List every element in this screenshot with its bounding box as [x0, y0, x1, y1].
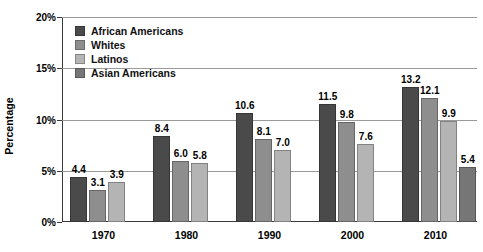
legend: African Americans Whites Latinos Asian A… [75, 26, 183, 79]
bar-value-label: 9.9 [442, 109, 456, 119]
bar-rect[interactable] [70, 177, 87, 222]
bar-value-label: 4.4 [72, 165, 86, 175]
x-tick-label-1990: 1990 [228, 224, 311, 246]
bar-rect[interactable] [108, 182, 125, 222]
bars: 11.59.87.6 [311, 17, 394, 222]
y-tick-label: 5% [42, 165, 56, 176]
x-tick-label-1980: 1980 [145, 224, 228, 246]
bar-rect[interactable] [357, 144, 374, 222]
legend-swatch-african-americans [75, 26, 85, 36]
legend-item: Whites [75, 40, 183, 51]
legend-item: African Americans [75, 26, 183, 37]
bar-rect[interactable] [440, 121, 457, 222]
bar-value-label: 10.6 [235, 101, 254, 111]
y-axis-title: Percentage [0, 0, 20, 252]
bar-rect[interactable] [402, 87, 419, 222]
y-tick-label: 15% [36, 63, 56, 74]
bar-rect[interactable] [319, 104, 336, 222]
bar-rect[interactable] [236, 113, 253, 222]
legend-label-african-americans: African Americans [91, 26, 183, 37]
y-tick-label: 0% [42, 217, 56, 228]
bar-2000-african-americans[interactable]: 11.5 [319, 17, 336, 222]
bar-value-label: 6.0 [174, 149, 188, 159]
bar-group-2010: 13.212.19.95.4 [394, 17, 477, 222]
bar-value-label: 7.6 [359, 132, 373, 142]
bar-value-label: 12.1 [420, 86, 439, 96]
bar-value-label: 3.1 [91, 178, 105, 188]
legend-label-latinos: Latinos [91, 54, 128, 65]
x-tick-label-2000: 2000 [311, 224, 394, 246]
bar-2010-asian-americans[interactable]: 5.4 [459, 17, 476, 222]
bar-rect[interactable] [255, 139, 272, 222]
y-tick-mark [57, 222, 62, 223]
y-tick-label: 10% [36, 114, 56, 125]
bar-rect[interactable] [421, 98, 438, 222]
bar-value-label: 13.2 [401, 75, 420, 85]
bar-2010-whites[interactable]: 12.1 [421, 17, 438, 222]
bar-value-label: 7.0 [276, 138, 290, 148]
legend-label-asian-americans: Asian Americans [91, 68, 176, 79]
bar-value-label: 5.4 [461, 155, 475, 165]
bars: 13.212.19.95.4 [394, 17, 477, 222]
legend-item: Latinos [75, 54, 183, 65]
bar-2010-african-americans[interactable]: 13.2 [402, 17, 419, 222]
legend-swatch-asian-americans [75, 68, 85, 78]
bar-rect[interactable] [459, 167, 476, 222]
x-tick-label-1970: 1970 [62, 224, 145, 246]
y-tick-label: 20% [36, 12, 56, 23]
bar-value-label: 9.8 [340, 110, 354, 120]
bar-rect[interactable] [191, 163, 208, 222]
legend-item: Asian Americans [75, 68, 183, 79]
legend-label-whites: Whites [91, 40, 125, 51]
y-axis-title-label: Percentage [3, 97, 15, 155]
bar-group-1990: 10.68.17.0 [228, 17, 311, 222]
bar-2010-latinos[interactable]: 9.9 [440, 17, 457, 222]
bar-value-label: 3.9 [110, 170, 124, 180]
bar-rect[interactable] [338, 122, 355, 222]
bar-rect[interactable] [274, 150, 291, 222]
bar-1990-whites[interactable]: 8.1 [255, 17, 272, 222]
legend-swatch-whites [75, 40, 85, 50]
bar-value-label: 8.4 [155, 124, 169, 134]
plot-area: 0%5%10%15%20% African Americans Whites L… [62, 17, 477, 222]
bar-1990-african-americans[interactable]: 10.6 [236, 17, 253, 222]
x-axis-labels: 19701980199020002010 [62, 224, 477, 246]
bars: 10.68.17.0 [228, 17, 311, 222]
grouped-bar-chart: Percentage 0%5%10%15%20% African America… [0, 0, 483, 252]
bar-rect[interactable] [172, 161, 189, 223]
bar-rect[interactable] [89, 190, 106, 222]
bar-1990-latinos[interactable]: 7.0 [274, 17, 291, 222]
bar-2000-latinos[interactable]: 7.6 [357, 17, 374, 222]
bar-group-2000: 11.59.87.6 [311, 17, 394, 222]
bar-2000-whites[interactable]: 9.8 [338, 17, 355, 222]
bar-value-label: 11.5 [318, 92, 337, 102]
bar-value-label: 8.1 [257, 127, 271, 137]
x-tick-label-2010: 2010 [394, 224, 477, 246]
bar-1980-latinos[interactable]: 5.8 [191, 17, 208, 222]
bar-rect[interactable] [153, 136, 170, 222]
legend-swatch-latinos [75, 54, 85, 64]
bar-value-label: 5.8 [193, 151, 207, 161]
